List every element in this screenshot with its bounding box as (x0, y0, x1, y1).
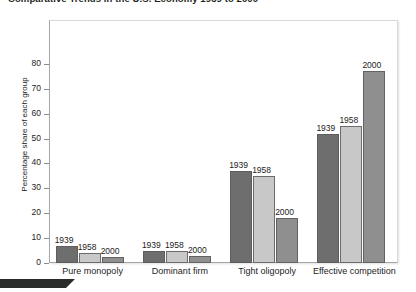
footer-tab (0, 279, 66, 288)
y-tick-label: 30 (32, 182, 41, 193)
y-tick: 70 (0, 89, 49, 90)
y-tick-mark (44, 213, 49, 214)
bar (166, 251, 188, 263)
y-tick-mark (44, 114, 49, 115)
bar (230, 171, 252, 263)
bar-value-label: 2000 (188, 245, 207, 255)
bar-value-label: 1958 (339, 115, 358, 125)
y-tick: 50 (0, 139, 49, 140)
y-tick: 40 (0, 163, 49, 164)
y-tick-mark (44, 139, 49, 140)
bar-value-label: 1958 (165, 240, 184, 250)
x-axis-category-label: Tight oligopoly (224, 266, 311, 276)
y-tick-mark (44, 89, 49, 90)
y-tick-label: 10 (32, 232, 41, 243)
y-tick-mark (44, 263, 49, 264)
bar-chart: Percentage share of each group 010203040… (0, 0, 416, 292)
y-tick-label: 60 (32, 108, 41, 119)
bar-value-label: 1939 (229, 160, 248, 170)
bar (276, 218, 298, 263)
bar-value-label: 1958 (78, 242, 97, 252)
bar-value-label: 2000 (275, 207, 294, 217)
bar-value-label: 1939 (55, 235, 74, 245)
bar (102, 257, 124, 263)
y-tick-label: 20 (32, 207, 41, 218)
x-axis-category-label: Effective competition (311, 266, 398, 276)
bar-value-label: 1939 (316, 123, 335, 133)
y-tick: 60 (0, 114, 49, 115)
y-tick-label: 0 (36, 257, 41, 268)
y-tick-label: 40 (32, 157, 41, 168)
y-tick-label: 50 (32, 133, 41, 144)
bar (79, 253, 101, 263)
y-tick-mark (44, 188, 49, 189)
y-tick: 0 (0, 263, 49, 264)
footer-tab-wedge-icon (66, 279, 75, 288)
bar-value-label: 1939 (142, 240, 161, 250)
x-axis-category-label: Dominant firm (136, 266, 223, 276)
bar (317, 134, 339, 263)
bar (363, 71, 385, 263)
y-tick-mark (44, 163, 49, 164)
bar (253, 176, 275, 263)
bar-value-label: 2000 (362, 60, 381, 70)
y-tick: 20 (0, 213, 49, 214)
bar-value-label: 1958 (252, 165, 271, 175)
bar (143, 251, 165, 263)
bar-value-label: 2000 (101, 246, 120, 256)
bar (340, 126, 362, 263)
y-tick-mark (44, 238, 49, 239)
y-tick-label: 80 (32, 58, 41, 69)
y-tick: 30 (0, 188, 49, 189)
x-axis-category-label: Pure monopoly (49, 266, 136, 276)
bar (189, 256, 211, 263)
y-tick: 80 (0, 64, 49, 65)
y-tick-label: 70 (32, 83, 41, 94)
bar (56, 246, 78, 263)
y-tick-mark (44, 64, 49, 65)
y-tick: 10 (0, 238, 49, 239)
